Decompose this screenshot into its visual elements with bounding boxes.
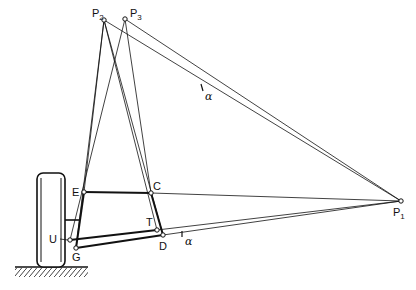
- construction-lines: [70, 19, 401, 248]
- label-c: C: [153, 180, 161, 192]
- upper-arm: [84, 192, 151, 193]
- angle-markers: [182, 84, 203, 237]
- label-e: E: [72, 186, 79, 198]
- ground: [15, 267, 88, 277]
- wheel: [37, 173, 65, 267]
- label-u: U: [49, 233, 57, 245]
- suspension-diagram: P2 P3 P1 E C T D U G α α: [0, 0, 416, 290]
- label-p1: P1: [393, 206, 405, 221]
- label-alpha-lower: α: [185, 235, 193, 248]
- label-p3: P3: [130, 7, 142, 22]
- pivot-points: [68, 17, 403, 250]
- label-t: T: [146, 216, 153, 228]
- label-alpha-upper: α: [205, 90, 213, 103]
- label-g: G: [72, 251, 81, 263]
- label-p2: P2: [92, 7, 104, 22]
- label-d: D: [159, 240, 167, 252]
